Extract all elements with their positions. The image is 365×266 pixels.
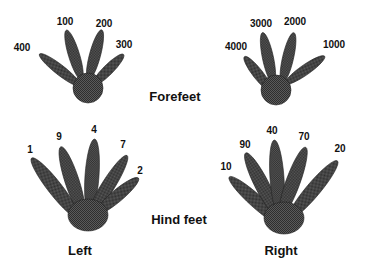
left-hind-foot <box>26 139 142 231</box>
toe-label: 40 <box>266 126 277 136</box>
toe-label: 100 <box>57 17 74 27</box>
toe-label: 3000 <box>250 19 272 29</box>
toe-label: 7 <box>120 140 126 150</box>
toe-label: 300 <box>116 40 133 50</box>
toe-label: 20 <box>334 144 345 154</box>
right-forefoot <box>241 31 328 105</box>
toe-label: 2 <box>137 166 143 176</box>
toe-label: 90 <box>239 140 250 150</box>
toe-label: 10 <box>220 162 231 172</box>
right-hind-foot <box>225 140 343 234</box>
toe-label: 1 <box>27 145 33 155</box>
left-forefoot <box>36 28 127 103</box>
hind-feet-label: Hind feet <box>151 213 207 226</box>
toe-label: 2000 <box>284 17 306 27</box>
toe-label: 70 <box>298 132 309 142</box>
forefeet-label: Forefeet <box>149 90 200 103</box>
toe-label: 400 <box>14 43 31 53</box>
left-label: Left <box>68 244 92 257</box>
toe-label: 9 <box>56 132 62 142</box>
right-label: Right <box>264 244 297 257</box>
toe-label: 4000 <box>225 42 247 52</box>
toe-label: 1000 <box>323 40 345 50</box>
toe-label: 4 <box>91 125 97 135</box>
toe-label: 200 <box>96 19 113 29</box>
